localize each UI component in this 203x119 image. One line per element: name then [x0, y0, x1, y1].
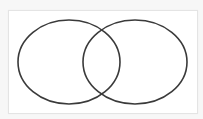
left-set-ellipse [18, 20, 120, 104]
right-set-ellipse [83, 20, 187, 104]
venn-diagram [0, 0, 203, 119]
